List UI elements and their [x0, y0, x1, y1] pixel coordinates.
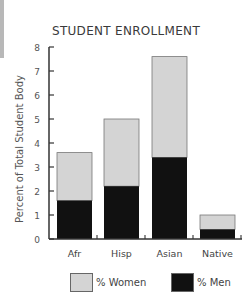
- y-tick-label: 7: [34, 67, 40, 77]
- x-tick-label: Hisp: [111, 248, 132, 259]
- legend-item-women: % Women: [70, 272, 146, 292]
- y-axis: 012345678: [34, 43, 54, 245]
- legend-item-men: % Men: [171, 272, 231, 292]
- y-tick-label: 8: [34, 43, 40, 53]
- y-tick-label: 4: [34, 139, 40, 149]
- legend-swatch-women: [70, 273, 93, 292]
- legend-swatch-men: [171, 273, 194, 292]
- y-tick-label: 5: [34, 115, 40, 125]
- y-tick-label: 6: [34, 91, 40, 101]
- bar-men-afr: [57, 201, 92, 239]
- bars: [57, 57, 235, 239]
- bar-men-hisp: [104, 186, 139, 239]
- legend-label-men: % Men: [197, 277, 231, 288]
- y-tick-label: 1: [34, 211, 40, 221]
- x-tick-label: Native: [202, 248, 233, 259]
- x-tick-label: Asian: [157, 248, 183, 259]
- bar-women-native: [200, 215, 235, 229]
- legend-label-women: % Women: [96, 277, 146, 288]
- chart-plot: 012345678 AfrHispAsianNative: [0, 0, 252, 308]
- bar-women-afr: [57, 153, 92, 201]
- bar-men-native: [200, 229, 235, 239]
- x-axis: AfrHispAsianNative: [49, 235, 242, 259]
- x-tick-label: Afr: [68, 248, 82, 259]
- bar-women-asian: [152, 57, 187, 158]
- y-tick-label: 2: [34, 187, 40, 197]
- y-tick-label: 3: [34, 163, 40, 173]
- bar-women-hisp: [104, 119, 139, 186]
- y-tick-label: 0: [34, 235, 40, 245]
- bar-men-asian: [152, 157, 187, 239]
